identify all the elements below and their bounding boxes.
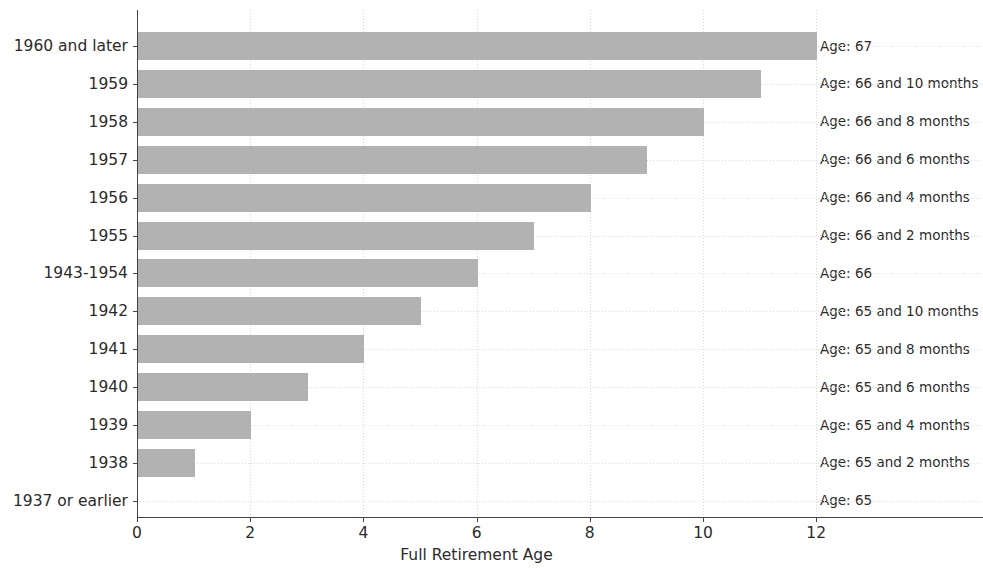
bar: [138, 108, 704, 136]
bar: [138, 297, 421, 325]
y-axis-category-label: 1958: [0, 114, 128, 130]
x-axis-tick-mark: [590, 518, 591, 522]
plot-area: 024681012: [137, 10, 816, 518]
bar: [138, 184, 591, 212]
x-axis-spine: [137, 517, 983, 518]
y-axis-category-label: 1942: [0, 303, 128, 319]
x-axis-tick-mark: [477, 518, 478, 522]
x-axis-tick-label: 8: [560, 524, 620, 542]
bar: [138, 411, 251, 439]
y-axis-spine: [137, 10, 138, 518]
x-axis-tick-label: 12: [786, 524, 846, 542]
x-axis-tick-label: 6: [447, 524, 507, 542]
x-axis-tick-mark: [137, 518, 138, 522]
y-axis-category-label: 1941: [0, 341, 128, 357]
horizontal-gridline: [137, 425, 983, 426]
bar: [138, 32, 817, 60]
y-axis-category-label: 1955: [0, 228, 128, 244]
y-axis-category-label: 1959: [0, 76, 128, 92]
bar: [138, 449, 195, 477]
y-axis-category-label: 1937 or earlier: [0, 493, 128, 509]
x-axis-tick-label: 10: [673, 524, 733, 542]
bar: [138, 146, 647, 174]
x-axis-tick-mark: [250, 518, 251, 522]
y-axis-category-label: 1938: [0, 455, 128, 471]
vertical-gridline: [816, 10, 817, 518]
y-axis-category-label: 1960 and later: [0, 38, 128, 54]
x-axis-tick-mark: [816, 518, 817, 522]
x-axis-tick-label: 2: [220, 524, 280, 542]
bar: [138, 259, 478, 287]
y-axis-category-label: 1943-1954: [0, 265, 128, 281]
horizontal-gridline: [137, 463, 983, 464]
y-axis-category-label: 1940: [0, 379, 128, 395]
y-axis-category-label: 1957: [0, 152, 128, 168]
bar: [138, 373, 308, 401]
x-axis-tick-label: 4: [333, 524, 393, 542]
bar: [138, 222, 534, 250]
bar: [138, 335, 364, 363]
x-axis-tick-label: 0: [107, 524, 167, 542]
horizontal-gridline: [137, 501, 983, 502]
x-axis-tick-mark: [703, 518, 704, 522]
y-axis-category-label: 1956: [0, 190, 128, 206]
x-axis-title: Full Retirement Age: [137, 546, 816, 564]
y-axis-category-label: 1939: [0, 417, 128, 433]
bar: [138, 70, 761, 98]
x-axis-tick-mark: [363, 518, 364, 522]
